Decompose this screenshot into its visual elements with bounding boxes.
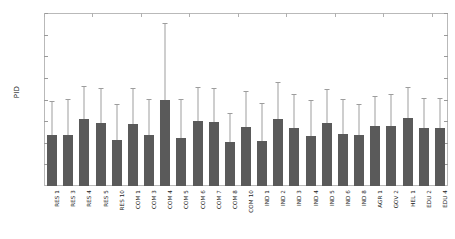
x-tick-label: RES 3 — [70, 190, 76, 207]
error-bar-line — [439, 99, 440, 129]
x-tick-label: IND 8 — [361, 190, 367, 206]
error-bar-cap — [114, 104, 119, 105]
x-tick-label: COM 1 — [135, 190, 141, 209]
error-bar-line — [116, 105, 117, 140]
bar — [403, 118, 413, 186]
bar-group — [367, 13, 383, 186]
error-bar-cap — [211, 88, 216, 89]
error-bar-line — [391, 95, 392, 126]
error-bar-line — [407, 88, 408, 117]
x-tick-label: COM 6 — [200, 190, 206, 209]
error-bar-line — [68, 100, 69, 135]
error-bar-cap — [147, 99, 152, 100]
error-bar-cap — [82, 86, 87, 87]
bar-group — [173, 13, 189, 186]
bar — [322, 123, 332, 186]
error-bar-line — [181, 100, 182, 138]
error-bar-cap — [405, 87, 410, 88]
bar-group — [222, 13, 238, 186]
bar-group — [319, 13, 335, 186]
x-tick-label: EDU 2 — [426, 190, 432, 208]
bar-group — [189, 13, 205, 186]
x-tick-label: GOV 2 — [393, 190, 399, 208]
x-tick-label: RES 1 — [54, 190, 60, 207]
bar-group — [109, 13, 125, 186]
bar — [209, 122, 219, 186]
bar — [419, 128, 429, 186]
chart-container: PID 0.0050.010.0150.020.0250.030.0350.04… — [0, 0, 455, 239]
x-tick-label: COM 3 — [151, 190, 157, 209]
bar — [47, 135, 57, 186]
error-bar-line — [165, 24, 166, 101]
error-bar-cap — [292, 94, 297, 95]
bar — [386, 126, 396, 186]
bar-group — [92, 13, 108, 186]
error-bar-line — [310, 101, 311, 136]
x-tick-label: IND 3 — [296, 190, 302, 206]
bar-group — [432, 13, 448, 186]
bar — [435, 128, 445, 186]
bar — [63, 135, 73, 186]
error-bar-cap — [50, 101, 55, 102]
error-bar-line — [100, 89, 101, 123]
error-bar-cap — [66, 99, 71, 100]
bar-group — [125, 13, 141, 186]
bar — [289, 128, 299, 186]
bar — [257, 141, 267, 186]
x-tick-label: RES 5 — [103, 190, 109, 207]
error-bar-cap — [243, 91, 248, 92]
bar-group — [400, 13, 416, 186]
error-bar-cap — [227, 113, 232, 114]
bar-group — [76, 13, 92, 186]
error-bar-cap — [437, 98, 442, 99]
x-tick-label: AGR 1 — [377, 190, 383, 208]
x-tick-label: HEL 1 — [410, 190, 416, 207]
x-tick-label: RES 4 — [86, 190, 92, 207]
bar-series — [44, 13, 448, 186]
error-bar-line — [52, 102, 53, 135]
bar-group — [303, 13, 319, 186]
bar-group — [254, 13, 270, 186]
error-bar-line — [213, 89, 214, 122]
x-tick-label: IND 5 — [329, 190, 335, 206]
bar — [273, 119, 283, 186]
x-tick-label: COM 8 — [232, 190, 238, 209]
bar — [225, 142, 235, 186]
bar-group — [206, 13, 222, 186]
error-bar-line — [326, 90, 327, 123]
bar — [144, 135, 154, 186]
bar — [96, 123, 106, 186]
error-bar-cap — [324, 89, 329, 90]
bar-group — [270, 13, 286, 186]
bar-group — [157, 13, 173, 186]
bar-group — [383, 13, 399, 186]
error-bar-cap — [98, 88, 103, 89]
bar — [306, 136, 316, 186]
bar — [370, 126, 380, 186]
error-bar-cap — [421, 98, 426, 99]
error-bar-line — [294, 95, 295, 127]
error-bar-cap — [163, 23, 168, 24]
error-bar-cap — [308, 100, 313, 101]
bar — [338, 134, 348, 186]
x-tick-label: RES 10 — [119, 190, 125, 210]
error-bar-cap — [260, 103, 265, 104]
error-bar-line — [149, 100, 150, 135]
error-bar-cap — [373, 96, 378, 97]
bar-group — [351, 13, 367, 186]
bar-group — [286, 13, 302, 186]
bar — [112, 140, 122, 186]
error-bar-line — [359, 105, 360, 135]
x-tick-label: IND 4 — [313, 190, 319, 206]
bar-group — [141, 13, 157, 186]
error-bar-line — [375, 97, 376, 126]
error-bar-cap — [195, 87, 200, 88]
error-bar-line — [84, 87, 85, 119]
bar-group — [238, 13, 254, 186]
error-bar-cap — [340, 99, 345, 100]
error-bar-cap — [130, 88, 135, 89]
x-tick-label: IND 1 — [264, 190, 270, 206]
error-bar-line — [132, 89, 133, 124]
error-bar-line — [423, 99, 424, 129]
error-bar-line — [229, 114, 230, 142]
